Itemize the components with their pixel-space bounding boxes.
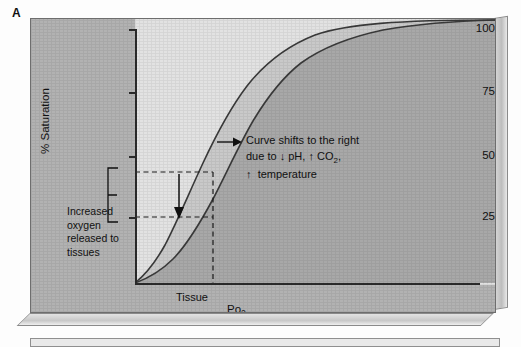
increased-oxygen-line-4: tissues (67, 246, 133, 260)
shift-co2-text: CO (317, 150, 334, 162)
shift-annotation-line-2: due to ↓ pH, ↑ CO2, (246, 149, 431, 167)
up-arrow-icon-temperature: ↑ (246, 168, 252, 180)
shift-annotation-line-3: ↑ temperature (246, 167, 431, 183)
y-axis-line (135, 29, 137, 285)
increased-oxygen-line-1: Increased (67, 205, 133, 219)
y-tick-label-100: 100 (401, 23, 495, 35)
x-axis-title-main: Po (227, 303, 241, 313)
shift-comma: , (338, 150, 341, 162)
down-arrow-icon-ph: ↓ (280, 150, 286, 162)
shift-due-to-text: due to (246, 150, 277, 162)
x-axis-title-sub: 2 (241, 308, 246, 313)
y-tick-label-25: 25 (401, 211, 495, 223)
x-axis-title: Po2 (227, 303, 246, 313)
increased-oxygen-note: Increased oxygen released to tissues (67, 205, 133, 260)
next-panel-edge (30, 338, 500, 347)
increased-oxygen-line-2: oxygen (67, 219, 133, 233)
y-tick-label-75: 75 (401, 86, 495, 98)
shift-annotation-line-1: Curve shifts to the right (246, 133, 431, 149)
curve-shift-annotation: Curve shifts to the right due to ↓ pH, ↑… (246, 133, 431, 183)
shift-ph-text: pH, (288, 150, 305, 162)
frame-bevel-right (494, 16, 508, 310)
plot-frame: 100 75 50 25 % Saturation Po2 Tissue Cur… (30, 18, 496, 313)
panel-letter: A (12, 6, 21, 20)
y-tick-75 (129, 92, 135, 94)
figure-3d-frame: 100 75 50 25 % Saturation Po2 Tissue Cur… (30, 18, 508, 326)
x-axis-line (135, 283, 480, 285)
shift-temperature-text: temperature (258, 168, 317, 180)
frame-bevel-bottom (17, 313, 494, 326)
y-tick-100 (129, 29, 135, 31)
figure-canvas: A (0, 0, 521, 347)
up-arrow-icon-co2: ↑ (308, 150, 314, 162)
y-tick-50 (129, 156, 135, 158)
y-axis-title: % Saturation (39, 61, 51, 181)
increased-oxygen-line-3: released to (67, 232, 133, 246)
tissue-label: Tissue (176, 291, 208, 303)
